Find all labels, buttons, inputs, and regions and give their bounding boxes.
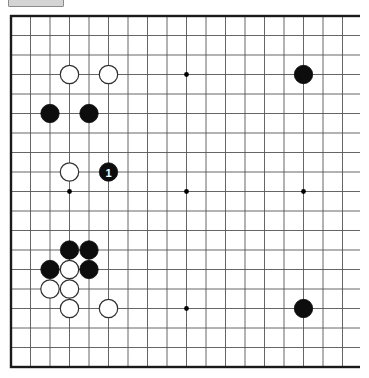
black-stone[interactable] xyxy=(41,104,59,122)
white-stone[interactable] xyxy=(60,260,78,278)
white-stone[interactable] xyxy=(99,65,117,83)
stone-move-number: 1 xyxy=(105,167,111,179)
stone-white[interactable] xyxy=(99,299,117,317)
stone-black[interactable]: 1 xyxy=(99,163,117,181)
stone-white[interactable] xyxy=(99,65,117,83)
star-point xyxy=(184,72,189,77)
white-stone[interactable] xyxy=(60,65,78,83)
white-stone[interactable] xyxy=(99,299,117,317)
stone-white[interactable] xyxy=(60,299,78,317)
stone-white[interactable] xyxy=(60,260,78,278)
white-stone[interactable] xyxy=(41,280,59,298)
black-stone[interactable] xyxy=(60,241,78,259)
black-stone[interactable] xyxy=(41,260,59,278)
toolbar-chip[interactable] xyxy=(8,0,64,7)
stone-white[interactable] xyxy=(41,280,59,298)
go-board[interactable]: 1 xyxy=(7,12,360,369)
stone-black[interactable] xyxy=(294,299,312,317)
stone-white[interactable] xyxy=(60,163,78,181)
star-point xyxy=(184,306,189,311)
stone-black[interactable] xyxy=(60,241,78,259)
screenshot-root: 1 xyxy=(0,0,369,378)
star-point xyxy=(184,189,189,194)
star-point xyxy=(301,189,306,194)
go-board-container[interactable]: 1 xyxy=(7,12,360,369)
stone-black[interactable] xyxy=(294,65,312,83)
stone-white[interactable] xyxy=(60,65,78,83)
black-stone[interactable] xyxy=(80,104,98,122)
black-stone[interactable] xyxy=(294,299,312,317)
stone-black[interactable] xyxy=(41,260,59,278)
black-stone[interactable] xyxy=(80,260,98,278)
white-stone[interactable] xyxy=(60,280,78,298)
stone-white[interactable] xyxy=(60,280,78,298)
stone-black[interactable] xyxy=(41,104,59,122)
star-point xyxy=(67,189,72,194)
white-stone[interactable] xyxy=(60,163,78,181)
stone-black[interactable] xyxy=(80,241,98,259)
white-stone[interactable] xyxy=(60,299,78,317)
stone-black[interactable] xyxy=(80,260,98,278)
stone-black[interactable] xyxy=(80,104,98,122)
black-stone[interactable] xyxy=(294,65,312,83)
black-stone[interactable] xyxy=(80,241,98,259)
